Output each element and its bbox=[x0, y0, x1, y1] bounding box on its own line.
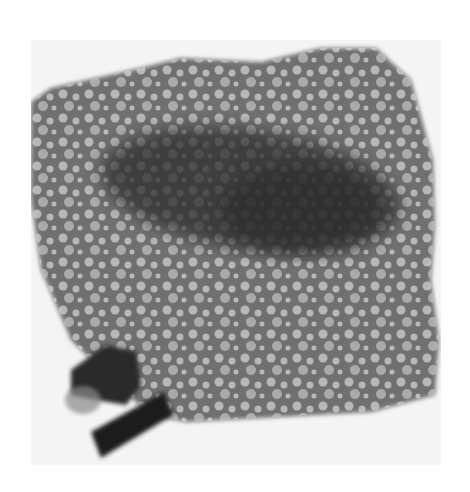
micrograph-image bbox=[31, 40, 441, 465]
micrograph-frame bbox=[31, 40, 441, 465]
